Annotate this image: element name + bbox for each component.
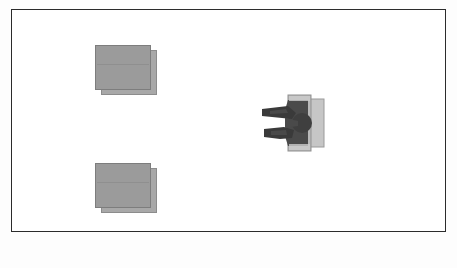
part-block-upper-face bbox=[95, 45, 151, 90]
part-block-lower bbox=[95, 163, 151, 208]
part-block-upper-seam bbox=[97, 64, 149, 65]
part-block-lower-face bbox=[95, 163, 151, 208]
diagram-canvas: 1/3 1/3 1/3 bbox=[0, 0, 457, 268]
part-block-lower-seam bbox=[97, 182, 149, 183]
dimension-band: 1/3 1/3 1/3 bbox=[0, 232, 457, 268]
robot-gripper-icon bbox=[258, 92, 326, 154]
part-block-upper bbox=[95, 45, 151, 90]
workspace-boundary bbox=[11, 9, 446, 232]
